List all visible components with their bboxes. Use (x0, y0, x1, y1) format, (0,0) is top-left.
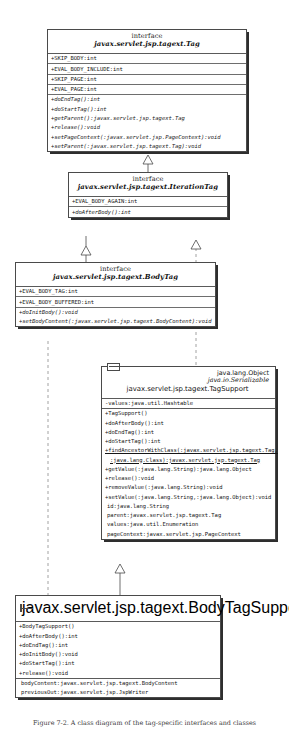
operation-row: +doEndTag():int (48, 95, 246, 104)
attribute-row: +EVAL_BODY_INCLUDE:int (48, 64, 246, 74)
operation-row: +TagSupport() (102, 409, 275, 418)
class-header-body-tag: interface javax.servlet.jsp.tagext.BodyT… (16, 263, 215, 286)
stereotype-label: interface (20, 266, 211, 273)
uml-diagram-canvas: interface javax.servlet.jsp.tagext.Tag +… (0, 0, 289, 733)
stereotype-label: interface (52, 33, 242, 40)
attribute-row: +EVAL_PAGE:int (48, 85, 246, 95)
class-header-tag: interface javax.servlet.jsp.tagext.Tag (48, 30, 246, 53)
field-row: values:java.util.Enumeration (102, 520, 275, 529)
class-box-tag[interactable]: interface javax.servlet.jsp.tagext.Tag +… (47, 29, 247, 152)
attribute-row: +EVAL_BODY_AGAIN:int (69, 197, 227, 207)
operation-row: +doStartTag():int (102, 437, 275, 446)
operation-row: +doStartTag():int (16, 659, 220, 668)
class-box-body-tag[interactable]: interface javax.servlet.jsp.tagext.BodyT… (15, 262, 216, 327)
class-header-tag-support: java.lang.Object java.io.Serializable ja… (102, 367, 275, 398)
operation-row: +release():void (48, 123, 246, 132)
class-name-label: javax.servlet.jsp.tagext.IterationTag (73, 184, 223, 192)
class-name-label: javax.servlet.jsp.tagext.BodyTag (20, 274, 211, 282)
operation-row: +doAfterBody():int (69, 207, 227, 216)
class-tab-icon (20, 604, 22, 612)
class-box-body-tag-support[interactable]: javax.servlet.jsp.tagext.BodyTagSupport … (15, 595, 221, 698)
class-name-label: javax.servlet.jsp.tagext.Tag (52, 41, 242, 49)
operation-row: +doAfterBody():int (16, 631, 220, 640)
attribute-row: +SKIP_BODY:int (48, 54, 246, 64)
operation-row: +BodyTagSupport() (16, 622, 220, 631)
operations-compartment-iteration-tag: +doAfterBody():int (69, 207, 227, 216)
class-box-tag-support[interactable]: java.lang.Object java.io.Serializable ja… (101, 366, 276, 540)
field-row: pageContext:javax.servlet.jsp.PageContex… (102, 529, 275, 538)
attributes-compartment-iteration-tag: +EVAL_BODY_AGAIN:int (69, 196, 227, 207)
class-header-iteration-tag: interface javax.servlet.jsp.tagext.Itera… (69, 173, 227, 196)
operation-row: +doEndTag():int (16, 641, 220, 650)
operation-row: +setValue(:java.lang.String,:java.lang.O… (102, 492, 275, 501)
operation-row-static-cont: :java.lang.Class):javax.servlet.jsp.tage… (102, 455, 275, 464)
class-header-body-tag-support: javax.servlet.jsp.tagext.BodyTagSupport (16, 596, 220, 621)
attribute-row: +SKIP_PAGE:int (48, 75, 246, 85)
class-name-label: javax.servlet.jsp.tagext.BodyTagSupport (22, 599, 289, 617)
operation-row: +doAfterBody():int (102, 418, 275, 427)
operations-compartment-body-tag-support: +BodyTagSupport() +doAfterBody():int +do… (16, 621, 220, 678)
operation-row: +getValue(:java.lang.String):java.lang.O… (102, 464, 275, 473)
field-row: id:java.lang.String (102, 502, 275, 511)
operation-row: +setParent(:javax.servlet.jsp.tagext.Tag… (48, 141, 246, 150)
fields-compartment-tag-support: id:java.lang.String parent:javax.servlet… (102, 502, 275, 539)
operations-compartment-tag-support: +TagSupport() +doAfterBody():int +doEndT… (102, 408, 275, 502)
operation-row: +removeValue(:java.lang.String):void (102, 483, 275, 492)
attributes-compartment-tag: +SKIP_BODY:int +EVAL_BODY_INCLUDE:int +S… (48, 53, 246, 95)
operation-row: +doStartTag():int (48, 104, 246, 113)
attribute-row: +EVAL_BODY_BUFFERED:int (16, 297, 215, 307)
stereotype-label: interface (73, 176, 223, 183)
attributes-compartment-tag-support: -values:java.util.Hashtable (102, 398, 275, 408)
fields-compartment-body-tag-support: bodyContent:javax.servlet.jsp.tagext.Bod… (16, 678, 220, 698)
field-row: previousOut:javax.servlet.jsp.JspWriter (16, 688, 220, 697)
operation-row: +release():void (16, 668, 220, 677)
operation-row: +getParent():javax.servlet.jsp.tagext.Ta… (48, 114, 246, 123)
attribute-row: -values:java.util.Hashtable (102, 399, 275, 408)
supertype-label: java.io.Serializable (106, 377, 269, 384)
operation-row: +release():void (102, 474, 275, 483)
field-row: bodyContent:javax.servlet.jsp.tagext.Bod… (16, 679, 220, 688)
operation-row: +setBodyContent(:javax.servlet.jsp.tagex… (16, 317, 215, 326)
class-name-label: javax.servlet.jsp.tagext.TagSupport (106, 386, 269, 394)
operation-row: +doInitBody():void (16, 650, 220, 659)
operations-compartment-body-tag: +doInitBody():void +setBodyContent(:java… (16, 308, 215, 327)
operations-compartment-tag: +doEndTag():int +doStartTag():int +getPa… (48, 95, 246, 151)
attributes-compartment-body-tag: +EVAL_BODY_TAG:int +EVAL_BODY_BUFFERED:i… (16, 286, 215, 308)
attribute-row: +EVAL_BODY_TAG:int (16, 287, 215, 297)
class-box-iteration-tag[interactable]: interface javax.servlet.jsp.tagext.Itera… (68, 172, 228, 218)
operation-row: +doInitBody():void (16, 308, 215, 317)
operation-row: +setPageContext(:javax.servlet.jsp.PageC… (48, 132, 246, 141)
field-row: parent:javax.servlet.jsp.tagext.Tag (102, 511, 275, 520)
operation-row: +doEndTag():int (102, 427, 275, 436)
class-tab-icon (107, 363, 120, 371)
operation-row-static: +findAncestorWithClass(:javax.servlet.js… (102, 446, 275, 455)
